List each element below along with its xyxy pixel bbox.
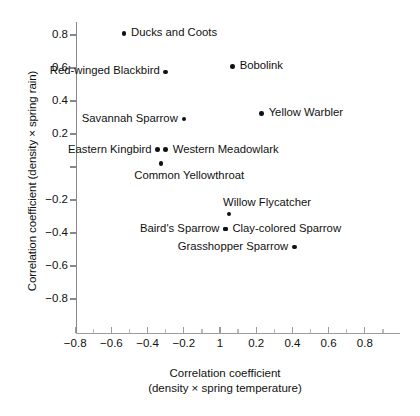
y-tick-mark (70, 199, 76, 200)
y-tick-label: −0.2 (28, 193, 68, 205)
data-point[interactable] (292, 245, 297, 250)
x-tick-label: 0.2 (236, 337, 276, 349)
data-point-label: Bobolink (240, 60, 283, 74)
data-point[interactable] (227, 212, 232, 217)
x-tick-mark (147, 327, 148, 333)
x-minor-tick-mark (382, 329, 383, 333)
y-tick-label: 0.4 (28, 94, 68, 106)
data-point-label: Yellow Warbler (269, 107, 344, 121)
data-point[interactable] (159, 161, 164, 166)
x-axis-title-line2: (density × spring temperature) (60, 381, 390, 396)
data-point-label: Willow Flycatcher (223, 196, 311, 210)
x-tick-mark (75, 327, 76, 333)
y-tick-label: 0.2 (28, 127, 68, 139)
x-tick-mark (256, 327, 257, 333)
scatter-plot-figure: Correlation coefficient (density × sprin… (0, 0, 420, 416)
y-tick-label: −0.4 (28, 226, 68, 238)
data-point-label: Ducks and Coots (131, 27, 217, 41)
x-tick-mark (183, 327, 184, 333)
x-tick-label: 0.4 (272, 337, 312, 349)
y-tick-label: 0.8 (28, 28, 68, 40)
y-tick-mark (70, 34, 76, 35)
x-tick-label: −0.4 (128, 337, 168, 349)
y-tick-mark (70, 265, 76, 266)
y-tick-mark (70, 298, 76, 299)
x-tick-label: −0.6 (91, 337, 131, 349)
y-tick-mark (70, 166, 76, 167)
y-tick-mark (70, 232, 76, 233)
x-axis-line (76, 333, 400, 334)
data-point-label: Savannah Sparrow (82, 112, 178, 126)
x-tick-mark (219, 327, 220, 333)
x-axis-title: Correlation coefficient (density × sprin… (60, 366, 390, 396)
x-tick-label: 0.8 (345, 337, 385, 349)
data-point-label: Clay-colored Sparrow (232, 222, 341, 236)
x-tick-label: −0.8 (55, 337, 95, 349)
data-point-label: Western Meadowlark (173, 143, 279, 157)
x-minor-tick-mark (310, 329, 311, 333)
x-minor-tick-mark (274, 329, 275, 333)
x-tick-mark (364, 327, 365, 333)
data-point[interactable] (223, 227, 228, 232)
y-tick-mark (70, 133, 76, 134)
x-minor-tick-mark (201, 329, 202, 333)
x-minor-tick-mark (346, 329, 347, 333)
x-minor-tick-mark (165, 329, 166, 333)
y-axis-title: Correlation coefficient (density × sprin… (26, 31, 38, 331)
data-point[interactable] (163, 147, 168, 152)
x-tick-label: 0.6 (309, 337, 349, 349)
data-point-label: Baird's Sparrow (140, 222, 219, 236)
y-tick-label: −0.6 (28, 259, 68, 271)
data-point[interactable] (259, 111, 264, 116)
x-tick-mark (328, 327, 329, 333)
y-tick-label: −0.8 (28, 292, 68, 304)
data-point-label: Eastern Kingbird (68, 143, 152, 157)
data-point[interactable] (163, 70, 168, 75)
data-point-label: Red-winged Blackbird (40, 64, 160, 78)
x-axis-title-line1: Correlation coefficient (60, 366, 390, 381)
data-point[interactable] (230, 64, 235, 69)
data-point[interactable] (155, 147, 160, 152)
y-tick-mark (70, 100, 76, 101)
x-tick-mark (111, 327, 112, 333)
x-minor-tick-mark (237, 329, 238, 333)
data-point[interactable] (122, 31, 127, 36)
data-point[interactable] (182, 117, 187, 122)
x-tick-mark (292, 327, 293, 333)
data-point-label: Common Yellowthroat (134, 169, 244, 183)
data-point-label: Grasshopper Sparrow (178, 240, 289, 254)
x-minor-tick-mark (93, 329, 94, 333)
x-minor-tick-mark (129, 329, 130, 333)
x-tick-label: 1 (200, 337, 240, 349)
x-tick-label: −0.2 (164, 337, 204, 349)
